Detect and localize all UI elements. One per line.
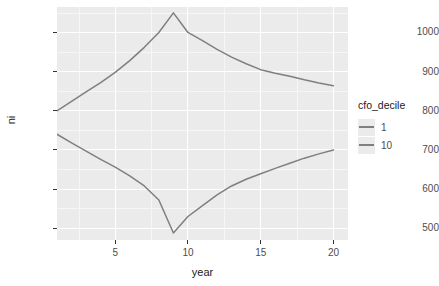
x-tick-mark bbox=[260, 240, 261, 244]
legend-entry[interactable]: 10 bbox=[358, 136, 439, 154]
y-tick-label: 600 bbox=[391, 184, 439, 194]
y-axis-title: ni bbox=[5, 100, 17, 140]
x-axis-title: year bbox=[57, 266, 348, 278]
data-series-layer bbox=[57, 7, 348, 240]
legend-title: cfo_decile bbox=[358, 99, 439, 111]
y-tick-mark bbox=[53, 32, 57, 33]
series-line bbox=[57, 13, 333, 111]
y-tick-mark bbox=[53, 71, 57, 72]
legend: cfo_decile 110 bbox=[358, 99, 439, 154]
y-tick-mark bbox=[53, 110, 57, 111]
legend-entry[interactable]: 1 bbox=[358, 118, 439, 136]
plot-panel bbox=[57, 7, 348, 240]
y-tick-label: 900 bbox=[391, 67, 439, 77]
x-tick-label: 10 bbox=[168, 248, 208, 258]
x-tick-mark bbox=[115, 240, 116, 244]
x-tick-label: 15 bbox=[241, 248, 281, 258]
y-tick-label: 1000 bbox=[391, 27, 439, 37]
chart-plot: 5006007008009001000 5101520 year ni cfo_… bbox=[0, 0, 439, 286]
legend-key-swatch bbox=[358, 137, 375, 154]
x-tick-label: 5 bbox=[95, 248, 135, 258]
x-tick-mark bbox=[187, 240, 188, 244]
legend-key-swatch bbox=[358, 119, 375, 136]
x-tick-label: 20 bbox=[313, 248, 353, 258]
legend-entry-label: 1 bbox=[381, 122, 387, 133]
y-tick-mark bbox=[53, 189, 57, 190]
legend-entry-label: 10 bbox=[381, 140, 392, 151]
y-tick-mark bbox=[53, 228, 57, 229]
series-line bbox=[57, 134, 333, 233]
y-tick-mark bbox=[53, 149, 57, 150]
y-tick-label: 500 bbox=[391, 223, 439, 233]
legend-entries: 110 bbox=[358, 118, 439, 154]
x-tick-mark bbox=[333, 240, 334, 244]
